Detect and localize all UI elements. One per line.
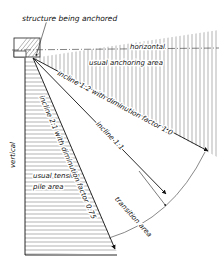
incline-1-2-label: incline 1:2 with diminution factor 1.0: [56, 69, 174, 137]
diagram-canvas: structure being anchored horizontal usua…: [0, 0, 219, 264]
anchoring-area-hatching: [36, 0, 216, 264]
vertical-label: vertical: [9, 142, 17, 168]
tension-pile-area-hatching: [0, 62, 219, 254]
transition-label-leader: [139, 171, 166, 206]
incline-1-1-label: incline 1:1: [94, 120, 125, 152]
ray-incline-2-1: [33, 58, 115, 249]
structure-label: structure being anchored: [22, 14, 117, 23]
horizontal-label: horizontal: [130, 43, 165, 51]
transition-area-arc: [109, 152, 205, 238]
anchoring-area-label: usual anchoring area: [89, 59, 163, 67]
transition-area-label: transition area: [113, 195, 153, 239]
anchor-zone-diagram: structure being anchored horizontal usua…: [0, 0, 219, 264]
tension-pile-area-label-line2: pile area: [32, 183, 64, 191]
